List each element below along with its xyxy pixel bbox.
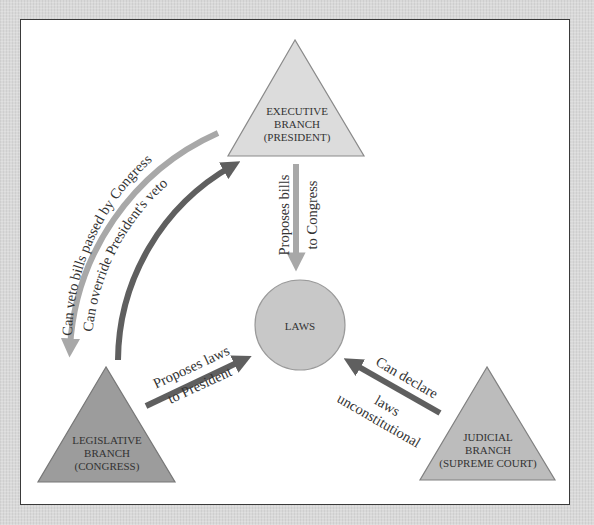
legislative-label-line3: (CONGRESS) bbox=[75, 460, 140, 473]
laws-label: LAWS bbox=[285, 320, 315, 332]
judicial-branch-node: JUDICIAL BRANCH (SUPREME COURT) bbox=[420, 367, 555, 480]
executive-branch-node: EXECUTIVE BRANCH (PRESIDENT) bbox=[228, 40, 364, 156]
proposes-bills-line2: to Congress bbox=[304, 180, 320, 249]
proposes-bills-label-2: to Congress bbox=[304, 180, 320, 249]
proposes-bills-line1: Proposes bills bbox=[276, 174, 292, 255]
laws-node: LAWS bbox=[255, 280, 345, 370]
judicial-label-line3: (SUPREME COURT) bbox=[439, 457, 537, 470]
judicial-label-line1: JUDICIAL bbox=[463, 431, 513, 443]
legislative-label-line1: LEGISLATIVE bbox=[72, 434, 142, 446]
executive-label-line1: EXECUTIVE bbox=[266, 105, 328, 117]
proposes-bills-label: Proposes bills bbox=[276, 174, 292, 255]
judicial-label-line2: BRANCH bbox=[465, 444, 511, 456]
legislative-label-line2: BRANCH bbox=[84, 447, 130, 459]
executive-label-line3: (PRESIDENT) bbox=[264, 131, 331, 144]
separation-of-powers-diagram: EXECUTIVE BRANCH (PRESIDENT) LEGISLATIVE… bbox=[0, 0, 594, 525]
executive-label-line2: BRANCH bbox=[274, 118, 320, 130]
